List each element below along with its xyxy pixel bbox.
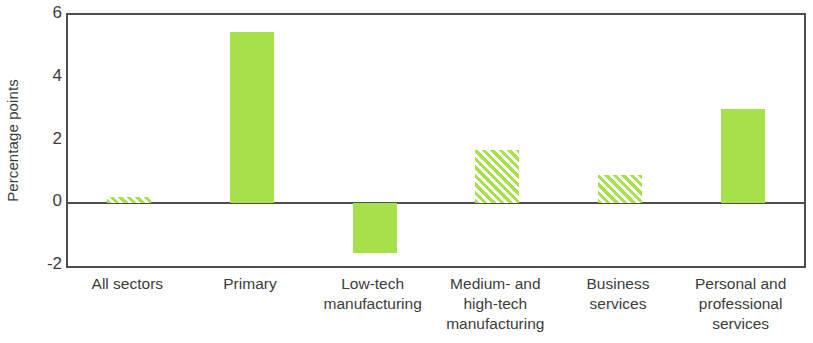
bar-2 [353,203,397,253]
bar-5 [721,109,765,203]
x-axis-label-line: services [667,314,813,334]
y-axis-tick-label: 2 [22,129,62,149]
x-axis-label-line: Personal and [667,274,813,294]
x-axis-category-labels: All sectorsPrimaryLow-techmanufacturingM… [66,274,806,343]
y-axis-tick-label: -2 [22,254,62,274]
zero-baseline [68,202,804,204]
y-axis-tick-label: 4 [22,66,62,86]
y-axis-tick-labels: 6420-2 [16,0,62,281]
x-axis-label-5: Personal andprofessionalservices [667,274,813,334]
plot-area [66,13,806,268]
bar-chart-figure: Percentage points 6420-2 All sectorsPrim… [0,0,813,343]
x-axis-label-line: manufacturing [422,314,569,334]
bar-3 [475,150,519,203]
y-axis-tick-label: 6 [22,3,62,23]
bar-0 [107,197,151,203]
bar-1 [230,32,274,203]
bar-4 [598,175,642,203]
x-axis-label-line: professional [667,294,813,314]
y-axis-tick-label: 0 [22,191,62,211]
